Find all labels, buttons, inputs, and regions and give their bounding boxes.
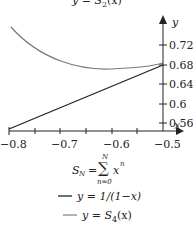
x-tick-label: −0.7 [51, 139, 78, 150]
y-tick-label: 0.6 [169, 99, 187, 110]
legend-item-s4: y = S4(x) [82, 210, 132, 225]
y-tick-label: 0.68 [169, 60, 193, 71]
y-tick-label: 0.64 [169, 79, 193, 90]
legend-item-reciprocal: y = 1/(1−x) [77, 191, 141, 202]
series-formula: S N = N ∑ n=0 x n [72, 153, 152, 189]
series-reciprocal-line [9, 65, 163, 129]
y-axis-label: y [172, 17, 178, 28]
x-tick-label: −0.5 [154, 139, 181, 150]
y-tick-label: 0.56 [169, 118, 193, 129]
y-axis-arrow-icon [159, 15, 167, 24]
x-tick-label: −0.8 [0, 139, 27, 150]
y-tick-label: 0.72 [169, 40, 193, 51]
top-title: y = S2(x) [72, 0, 122, 10]
series-s4-curve [11, 27, 163, 69]
x-tick-label: −0.6 [103, 139, 130, 150]
